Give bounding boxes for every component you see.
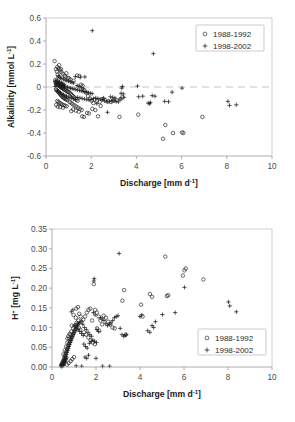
data-point-circle [65,71,69,75]
x-tick-label: 4 [138,373,143,382]
data-point-plus [234,103,238,107]
data-point-plus [153,320,157,324]
y-tick-label: -0.4 [27,129,42,138]
data-point-circle [92,101,96,105]
data-point-circle [118,115,122,119]
data-point-plus [150,94,154,98]
hydrogen-ion-plot-svg: 0.000.050.100.150.200.250.300.350246810D… [0,211,295,422]
data-point-circle [136,113,140,117]
legend-label: 1988-1992 [215,334,254,343]
alkalinity-plot-svg: -0.6-0.4-0.200.20.40.60246810Discharge [… [0,0,295,211]
alkalinity-chart-panel: -0.6-0.4-0.200.20.40.60246810Discharge [… [0,0,295,211]
data-point-circle [104,316,108,320]
data-point-plus [92,277,96,281]
data-point-plus [228,304,232,308]
data-point-plus [135,84,139,88]
data-point-plus [105,110,109,114]
data-point-circle [96,115,100,119]
x-tick-label: 8 [225,162,230,171]
y-tick-label: 0.2 [30,60,42,69]
data-point-circle [83,315,87,319]
data-point-plus [92,279,96,283]
legend: 1988-19921998-2002 [196,25,264,51]
data-point-plus [108,364,112,368]
data-point-circle [99,104,103,108]
data-point-plus [182,285,186,289]
data-point-plus [118,326,122,330]
data-point-plus [170,90,174,94]
x-tick-label: 2 [94,373,99,382]
data-point-plus [91,96,95,100]
x-axis-title: Discharge [mm d-1] [123,389,201,399]
data-point-plus [117,251,121,255]
x-tick-label: 2 [89,162,94,171]
data-point-plus [80,364,84,368]
data-point-plus [227,103,231,107]
x-tick-label: 6 [182,373,187,382]
data-point-circle [111,326,115,330]
y-axis-title: H+ [mg L-1] [10,276,20,320]
x-tick-label: 4 [134,162,139,171]
data-point-plus [83,75,87,79]
legend-label: 1998-2002 [215,346,254,355]
y-tick-label: 0.10 [31,324,47,333]
data-point-plus [119,91,123,95]
y-tick-label: 0.20 [31,284,47,293]
data-point-circle [164,255,168,259]
data-point-circle [90,319,94,323]
data-point-plus [87,98,91,102]
data-point-circle [164,123,168,127]
series-circles [59,255,205,368]
y-tick-label: 0 [36,83,41,92]
data-point-circle [113,327,117,331]
data-point-circle [171,131,175,135]
x-tick-label: 10 [267,162,277,171]
data-point-plus [163,99,167,103]
y-tick-label: 0.30 [31,245,47,254]
data-point-plus [137,95,141,99]
y-tick-label: -0.6 [27,152,42,161]
data-point-circle [86,94,90,98]
y-tick-label: 0.4 [30,37,42,46]
x-axis-title: Discharge [mm d-1] [120,178,198,188]
data-point-circle [201,115,205,119]
data-point-plus [141,94,145,98]
data-point-plus [173,310,177,314]
data-point-plus [80,96,84,100]
data-point-plus [151,52,155,56]
data-point-circle [150,295,154,299]
x-tick-label: 8 [226,373,231,382]
data-point-plus [166,100,170,104]
x-tick-label: 0 [50,373,55,382]
legend-label: 1998-2002 [213,42,252,51]
data-point-circle [121,299,125,303]
x-tick-label: 6 [179,162,184,171]
y-tick-label: 0.15 [31,304,47,313]
data-point-circle [181,274,185,278]
hydrogen-ion-chart-panel: 0.000.050.100.150.200.250.300.350246810D… [0,211,295,422]
data-point-plus [234,310,238,314]
legend-label: 1988-1992 [213,30,252,39]
data-point-circle [53,59,57,63]
data-point-circle [139,303,143,307]
legend: 1988-19921998-2002 [198,329,266,355]
data-point-plus [73,75,77,79]
data-point-plus [226,300,230,304]
y-tick-label: 0.00 [31,363,47,372]
data-point-circle [202,278,206,282]
data-point-plus [90,29,94,33]
data-point-plus [94,356,98,360]
data-point-plus [76,95,80,99]
y-tick-label: 0.25 [31,264,47,273]
y-tick-label: -0.2 [27,106,42,115]
y-tick-label: 0.6 [30,14,42,23]
data-point-circle [122,288,126,292]
data-point-plus [108,95,112,99]
x-tick-label: 0 [44,162,49,171]
data-point-plus [160,312,164,316]
data-point-circle [74,316,78,320]
data-point-circle [100,323,104,327]
y-axis-title: Alkalinity [mmol L-1] [6,46,16,128]
x-tick-label: 10 [267,373,277,382]
data-point-plus [226,99,230,103]
